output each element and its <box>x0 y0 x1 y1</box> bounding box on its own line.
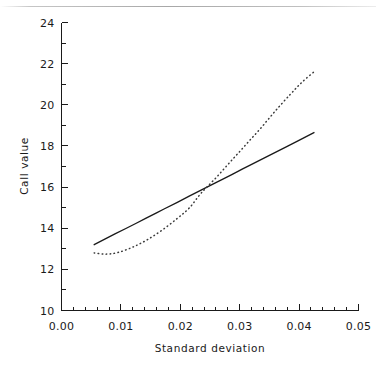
y-tick-label: 20 <box>40 99 54 112</box>
y-tick-label: 10 <box>40 305 54 318</box>
x-tick-label: 0.02 <box>168 320 193 333</box>
series-dotted-curve <box>94 72 314 254</box>
x-tick-label: 0.05 <box>346 320 371 333</box>
data-series <box>94 72 314 254</box>
axis-ticks <box>62 23 359 311</box>
plot-axes <box>62 23 359 311</box>
series-solid-line <box>94 133 314 245</box>
axis-tick-labels: 10121416182022240.000.010.020.030.040.05 <box>40 17 371 333</box>
x-tick-label: 0.01 <box>108 320 133 333</box>
y-tick-label: 18 <box>40 140 54 153</box>
y-tick-label: 22 <box>40 58 54 71</box>
y-tick-label: 24 <box>40 17 54 30</box>
x-axis-title: Standard deviation <box>155 342 266 354</box>
y-tick-label: 16 <box>40 181 54 194</box>
x-tick-label: 0.03 <box>227 320 252 333</box>
x-tick-label: 0.04 <box>286 320 311 333</box>
y-axis-title: Call value <box>18 137 30 195</box>
chart-figure: 10121416182022240.000.010.020.030.040.05… <box>0 0 376 366</box>
y-tick-label: 12 <box>40 263 54 276</box>
y-tick-label: 14 <box>40 222 54 235</box>
call-value-vs-standard-deviation-chart: 10121416182022240.000.010.020.030.040.05… <box>0 0 376 366</box>
x-tick-label: 0.00 <box>49 320 74 333</box>
